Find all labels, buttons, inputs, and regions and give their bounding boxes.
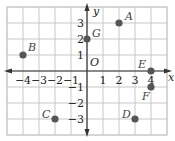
point-label-b: B xyxy=(27,41,36,54)
x-tick-label: 1 xyxy=(100,74,107,87)
point-label-d: D xyxy=(121,108,131,121)
x-tick-label: −4 xyxy=(15,74,31,87)
x-tick-label: −3 xyxy=(31,74,47,87)
point-d xyxy=(131,115,138,122)
y-tick-label: 3 xyxy=(77,17,84,30)
y-tick-label: −3 xyxy=(68,113,84,126)
coordinate-plane: x y O −4−3−2−11234 321−1−2−3 ABCDEFG xyxy=(0,0,175,141)
y-tick-label: 2 xyxy=(77,33,84,46)
point-label-c: C xyxy=(42,108,51,121)
origin-label: O xyxy=(90,56,99,69)
point-label-a: A xyxy=(124,10,133,23)
x-tick-label: 2 xyxy=(116,74,123,87)
point-label-f: F xyxy=(141,90,150,103)
point-a xyxy=(115,19,122,26)
y-axis-down-arrow-icon xyxy=(85,129,90,137)
x-tick-label: 3 xyxy=(132,74,139,87)
point-c xyxy=(51,115,58,122)
point-label-e: E xyxy=(137,58,146,71)
x-axis-label: x xyxy=(168,71,175,84)
y-axis-label: y xyxy=(92,5,100,18)
point-label-g: G xyxy=(92,27,101,40)
y-tick-label: −2 xyxy=(68,97,84,110)
y-tick-label: −1 xyxy=(68,81,84,94)
y-tick-label: 1 xyxy=(77,49,84,62)
point-e xyxy=(147,67,154,74)
x-axis-left-arrow-icon xyxy=(4,69,12,74)
x-tick-label: −2 xyxy=(47,74,63,87)
point-g xyxy=(83,35,90,42)
x-tick-labels: −4−3−2−11234 xyxy=(15,74,155,87)
point-b xyxy=(19,51,26,58)
